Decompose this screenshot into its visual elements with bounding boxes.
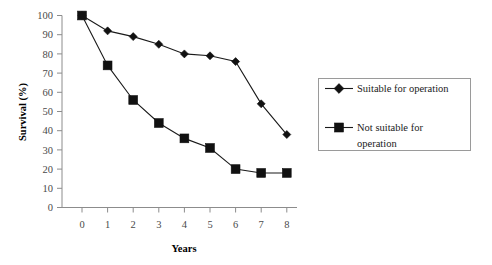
x-axis-ticks <box>82 208 287 213</box>
diamond-marker-icon <box>334 84 344 94</box>
square-marker-icon <box>154 119 163 128</box>
y-axis-ticks <box>57 16 62 208</box>
series-line-path <box>82 16 287 135</box>
square-marker-icon <box>257 169 266 178</box>
x-tick-label: 8 <box>284 219 289 230</box>
y-tick-label: 40 <box>43 125 54 136</box>
diamond-marker-icon <box>180 50 188 58</box>
square-marker-icon <box>282 169 291 178</box>
square-marker-icon <box>78 11 87 20</box>
square-marker-icon <box>335 123 344 132</box>
square-marker-icon <box>129 96 138 105</box>
y-tick-label: 60 <box>43 87 54 98</box>
diamond-marker-icon <box>129 33 137 41</box>
y-tick-label: 0 <box>48 202 53 213</box>
y-axis-tick-labels: 0 10 20 30 40 50 60 70 80 90 100 <box>37 10 53 213</box>
y-tick-label: 30 <box>43 145 54 156</box>
legend-item-not-suitable[interactable]: Not suitable for operation <box>325 122 423 148</box>
diamond-marker-icon <box>232 58 240 66</box>
x-axis-tick-labels: 0 1 2 3 4 5 6 7 8 <box>79 219 289 230</box>
x-tick-label: 5 <box>207 219 212 230</box>
x-tick-label: 6 <box>233 219 238 230</box>
y-tick-label: 70 <box>43 68 54 79</box>
y-tick-label: 80 <box>43 49 54 60</box>
series-1 <box>78 12 291 139</box>
square-marker-icon <box>206 144 215 153</box>
y-axis-title: Survival (%) <box>17 82 29 141</box>
y-tick-label: 100 <box>37 10 53 21</box>
legend-label-not-suitable-line2: operation <box>357 138 397 149</box>
legend-label-not-suitable-line1: Not suitable for <box>357 122 423 133</box>
series-line-path <box>82 16 287 173</box>
diamond-marker-icon <box>155 40 163 48</box>
x-tick-label: 3 <box>156 219 161 230</box>
legend-label-suitable: Suitable for operation <box>357 83 449 94</box>
diamond-marker-icon <box>206 52 214 60</box>
x-axis-title: Years <box>171 243 196 254</box>
diamond-marker-icon <box>104 27 112 35</box>
x-tick-label: 0 <box>79 219 84 230</box>
survival-line-chart: Survival (%) 0 10 20 30 40 50 60 <box>0 0 492 265</box>
chart-canvas: Survival (%) 0 10 20 30 40 50 60 <box>0 0 492 265</box>
legend-item-suitable[interactable]: Suitable for operation <box>325 83 449 94</box>
x-tick-label: 2 <box>131 219 136 230</box>
x-tick-label: 7 <box>259 219 264 230</box>
y-tick-label: 20 <box>43 164 54 175</box>
x-tick-label: 4 <box>182 219 188 230</box>
square-marker-icon <box>231 165 240 174</box>
data-series-layer <box>78 11 292 177</box>
y-tick-label: 90 <box>43 29 54 40</box>
series-2 <box>78 11 292 177</box>
square-marker-icon <box>103 61 112 70</box>
y-tick-label: 50 <box>43 106 54 117</box>
y-tick-label: 10 <box>43 183 54 194</box>
square-marker-icon <box>180 134 189 143</box>
chart-legend: Suitable for operation Not suitable for … <box>319 79 471 151</box>
x-tick-label: 1 <box>105 219 110 230</box>
